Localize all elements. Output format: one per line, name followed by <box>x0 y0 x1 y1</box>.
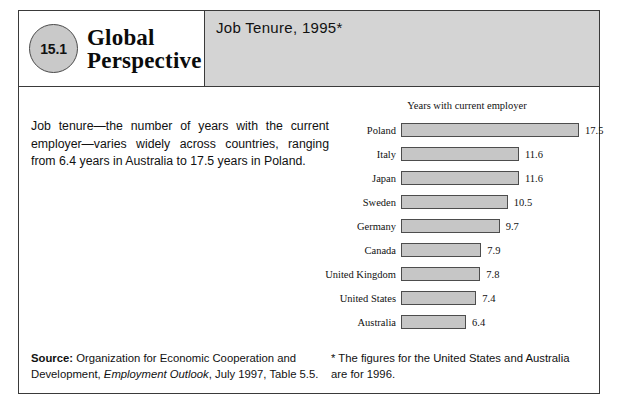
footnote-text: * The figures for the United States and … <box>327 351 587 382</box>
source-publication: Employment Outlook <box>104 368 209 380</box>
bar-category-label: United Kingdom <box>319 269 401 280</box>
page-title: Job Tenure, 1995* <box>216 19 343 36</box>
exhibit-body: Job tenure—the number of years with the … <box>19 87 599 393</box>
bar-value-label: 7.9 <box>487 245 500 256</box>
bar-value-label: 11.6 <box>525 149 543 160</box>
source-text-2: , July 1997, Table 5.5. <box>209 368 319 380</box>
bar <box>401 123 579 137</box>
bar-value-label: 17.5 <box>585 125 603 136</box>
bar-track: 11.6 <box>401 166 591 190</box>
chart-row: Australia6.4 <box>319 310 591 334</box>
source-note: Source: Organization for Economic Cooper… <box>31 351 327 382</box>
job-tenure-bar-chart: Years with current employer Poland17.5It… <box>319 100 591 334</box>
bar-category-label: Canada <box>319 245 401 256</box>
bar-value-label: 9.7 <box>506 221 519 232</box>
chart-row: United Kingdom7.8 <box>319 262 591 286</box>
exhibit-box: 15.1 Global Perspective Job Tenure, 1995… <box>18 10 600 394</box>
series-title-line2: Perspective <box>87 49 202 72</box>
description-paragraph: Job tenure—the number of years with the … <box>31 118 329 171</box>
bar-track: 7.8 <box>401 262 591 286</box>
bar <box>401 219 500 233</box>
bar-category-label: Italy <box>319 149 401 160</box>
bar <box>401 147 519 161</box>
bar-track: 17.5 <box>401 118 603 142</box>
bar-category-label: Australia <box>319 317 401 328</box>
chart-title: Years with current employer <box>343 100 591 111</box>
bar <box>401 315 466 329</box>
series-title-line1: Global <box>87 25 155 50</box>
chart-row: Italy11.6 <box>319 142 591 166</box>
chart-row: Japan11.6 <box>319 166 591 190</box>
bar-value-label: 7.4 <box>482 293 495 304</box>
bar-track: 11.6 <box>401 142 591 166</box>
bar-value-label: 6.4 <box>472 317 485 328</box>
bar <box>401 267 480 281</box>
header-case-panel: Job Tenure, 1995* <box>205 11 599 86</box>
chart-row: Sweden10.5 <box>319 190 591 214</box>
exhibit-number-badge: 15.1 <box>29 24 78 73</box>
bar-value-label: 11.6 <box>525 173 543 184</box>
bar-category-label: Sweden <box>319 197 401 208</box>
bar <box>401 171 519 185</box>
bar-track: 7.9 <box>401 238 591 262</box>
bar-category-label: Poland <box>319 125 401 136</box>
exhibit-footer: Source: Organization for Economic Cooper… <box>31 351 587 382</box>
bar <box>401 291 476 305</box>
bar-value-label: 10.5 <box>514 197 532 208</box>
bar <box>401 195 508 209</box>
bar-category-label: Japan <box>319 173 401 184</box>
page-root: 15.1 Global Perspective Job Tenure, 1995… <box>0 0 619 414</box>
source-label: Source: <box>31 352 73 364</box>
bar-track: 10.5 <box>401 190 591 214</box>
bar <box>401 243 481 257</box>
exhibit-header: 15.1 Global Perspective Job Tenure, 1995… <box>19 11 599 87</box>
bar-track: 9.7 <box>401 214 591 238</box>
series-title: Global Perspective <box>87 26 202 72</box>
header-brand: 15.1 Global Perspective <box>19 11 205 86</box>
bar-category-label: Germany <box>319 221 401 232</box>
chart-row: Germany9.7 <box>319 214 591 238</box>
bar-track: 6.4 <box>401 310 591 334</box>
bar-value-label: 7.8 <box>486 269 499 280</box>
bar-category-label: United States <box>319 293 401 304</box>
bar-track: 7.4 <box>401 286 591 310</box>
chart-rows: Poland17.5Italy11.6Japan11.6Sweden10.5Ge… <box>319 118 591 334</box>
chart-row: United States7.4 <box>319 286 591 310</box>
chart-row: Canada7.9 <box>319 238 591 262</box>
chart-row: Poland17.5 <box>319 118 591 142</box>
